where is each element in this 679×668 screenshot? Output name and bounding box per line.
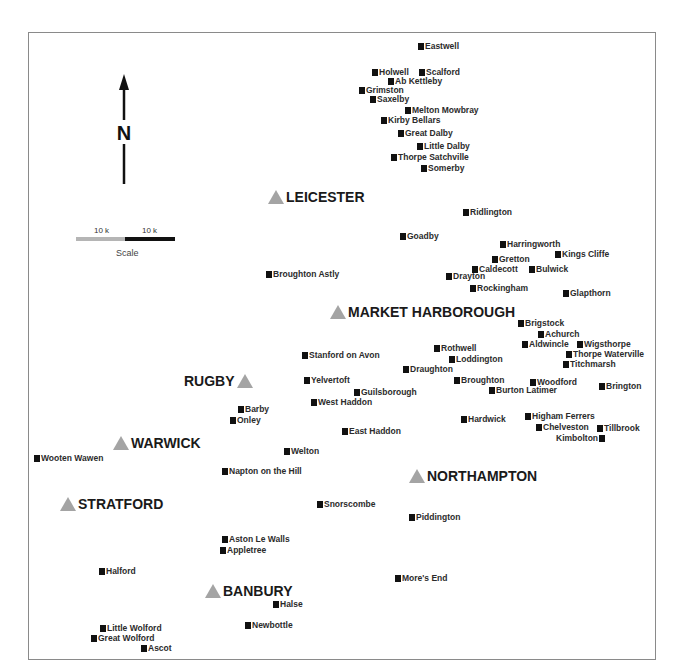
town-triangle-icon: [237, 374, 253, 388]
village-label: Gretton: [499, 254, 530, 264]
village-square-icon: [370, 96, 376, 103]
village-tillbrook: Tillbrook: [597, 423, 640, 433]
village-bulwick: Bulwick: [529, 264, 568, 274]
village-square-icon: [403, 366, 409, 373]
village-burton-latimer: Burton Latimer: [489, 385, 557, 395]
village-square-icon: [395, 575, 401, 582]
village-square-icon: [220, 547, 226, 554]
village-square-icon: [284, 448, 290, 455]
village-halford: Halford: [99, 566, 136, 576]
village-label: Kimbolton: [556, 433, 598, 443]
village-label: Loddington: [456, 354, 503, 364]
village-label: Burton Latimer: [496, 385, 557, 395]
village-wigsthorpe: Wigsthorpe: [577, 339, 631, 349]
village-appletree: Appletree: [220, 545, 266, 555]
village-label: Stanford on Avon: [309, 350, 380, 360]
village-great-wolford: Great Wolford: [91, 633, 155, 643]
village-square-icon: [409, 514, 415, 521]
village-label: Great Dalby: [405, 128, 453, 138]
village-label: Chelveston: [543, 422, 589, 432]
village-napton-on-the-hill: Napton on the Hill: [222, 466, 302, 476]
village-label: Somerby: [428, 163, 464, 173]
village-little-wolford: Little Wolford: [100, 623, 162, 633]
village-label: Aston Le Walls: [229, 534, 290, 544]
village-square-icon: [273, 601, 279, 608]
village-square-icon: [454, 377, 460, 384]
village-chelveston: Chelveston: [536, 422, 589, 432]
village-loddington: Loddington: [449, 354, 503, 364]
village-snorscombe: Snorscombe: [317, 499, 376, 509]
north-arrow-icon: N: [114, 74, 134, 184]
village-square-icon: [359, 87, 365, 94]
village-label: Snorscombe: [324, 499, 376, 509]
village-higham-ferrers: Higham Ferrers: [525, 411, 595, 421]
village-draughton: Draughton: [403, 364, 453, 374]
village-label: Broughton: [461, 375, 504, 385]
village-label: Great Wolford: [98, 633, 155, 643]
village-square-icon: [302, 352, 308, 359]
village-gretton: Gretton: [492, 254, 530, 264]
village-brigstock: Brigstock: [518, 318, 564, 328]
village-label: Brington: [606, 381, 641, 391]
village-label: Aldwincle: [529, 339, 569, 349]
village-square-icon: [398, 130, 404, 137]
village-square-icon: [342, 428, 348, 435]
village-label: Onley: [237, 415, 261, 425]
village-hardwick: Hardwick: [461, 414, 506, 424]
village-label: Goadby: [407, 231, 439, 241]
village-square-icon: [266, 271, 272, 278]
village-square-icon: [418, 43, 424, 50]
village-label: Yelvertoft: [311, 375, 350, 385]
village-label: Ridlington: [470, 207, 512, 217]
town-label: LEICESTER: [286, 189, 365, 205]
village-square-icon: [100, 625, 106, 632]
village-saxelby: Saxelby: [370, 94, 409, 104]
village-barby: Barby: [238, 404, 269, 414]
village-square-icon: [555, 251, 561, 258]
village-label: Kirby Bellars: [388, 115, 440, 125]
village-square-icon: [99, 568, 105, 575]
village-label: Tillbrook: [604, 423, 640, 433]
village-square-icon: [238, 406, 244, 413]
village-label: Hardwick: [468, 414, 506, 424]
village-square-icon: [536, 424, 542, 431]
village-label: Wooten Wawen: [41, 453, 103, 463]
village-square-icon: [599, 383, 605, 390]
village-square-icon: [354, 389, 360, 396]
village-square-icon: [388, 78, 394, 85]
village-square-icon: [463, 209, 469, 216]
village-square-icon: [372, 69, 378, 76]
village-little-dalby: Little Dalby: [417, 141, 470, 151]
village-square-icon: [222, 468, 228, 475]
village-somerby: Somerby: [421, 163, 464, 173]
village-label: Wigsthorpe: [584, 339, 631, 349]
village-square-icon: [419, 69, 425, 76]
village-square-icon: [525, 413, 531, 420]
town-label: RUGBY: [184, 373, 235, 389]
town-triangle-icon: [113, 436, 129, 450]
village-square-icon: [400, 233, 406, 240]
village-square-icon: [518, 320, 524, 327]
village-melton-mowbray: Melton Mowbray: [405, 105, 479, 115]
town-triangle-icon: [60, 497, 76, 511]
village-label: Guilsborough: [361, 387, 417, 397]
village-great-dalby: Great Dalby: [398, 128, 453, 138]
village-drayton: Drayton: [446, 271, 485, 281]
village-label: Newbottle: [252, 620, 293, 630]
village-aldwincle: Aldwincle: [522, 339, 569, 349]
village-label: Saxelby: [377, 94, 409, 104]
village-label: Brigstock: [525, 318, 564, 328]
village-square-icon: [470, 285, 476, 292]
village-square-icon: [577, 341, 583, 348]
village-square-icon: [449, 356, 455, 363]
village-square-icon: [417, 143, 423, 150]
village-east-haddon: East Haddon: [342, 426, 401, 436]
village-square-icon: [311, 399, 317, 406]
village-square-icon: [304, 377, 310, 384]
village-label: Little Dalby: [424, 141, 470, 151]
village-west-haddon: West Haddon: [311, 397, 372, 407]
village-square-icon: [421, 165, 427, 172]
village-square-icon: [489, 387, 495, 394]
village-wooten-wawen: Wooten Wawen: [34, 453, 103, 463]
town-warwick: WARWICK: [113, 435, 201, 451]
